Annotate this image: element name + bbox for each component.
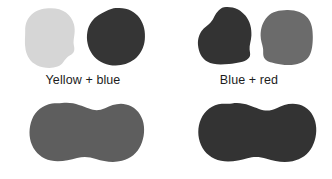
medium-gray-peanut-blob bbox=[28, 100, 146, 166]
light-gray-rounded-blob bbox=[22, 7, 80, 69]
medium-gray-rounded-blob bbox=[258, 9, 316, 67]
dark-gray-round-blob bbox=[196, 6, 258, 68]
dark-gray-peanut-blob bbox=[196, 100, 318, 166]
caption-blue-red: Blue + red bbox=[166, 74, 332, 87]
blob-pair-yellow-blue: Yellow + blue bbox=[0, 0, 166, 92]
caption-yellow-blue: Yellow + blue bbox=[0, 74, 166, 87]
figure-canvas: Yellow + blue Blue + red bbox=[0, 0, 332, 179]
dark-gray-round-blob bbox=[85, 7, 147, 67]
blob-row-bottom bbox=[0, 92, 332, 179]
blob-pair-blue-red: Blue + red bbox=[166, 0, 332, 92]
